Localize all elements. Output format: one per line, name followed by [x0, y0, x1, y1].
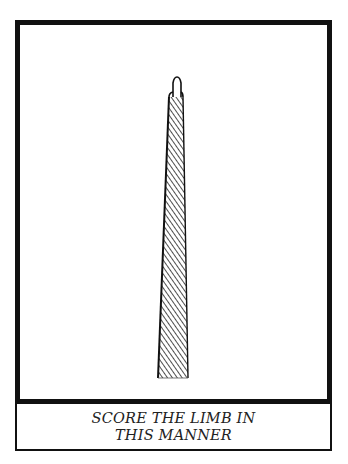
caption: SCORE THE LIMB IN THIS MANNER — [17, 404, 330, 449]
caption-line-2: THIS MANNER — [115, 427, 232, 444]
caption-line-1: SCORE THE LIMB IN — [92, 410, 256, 427]
scored-limb-illustration — [0, 0, 348, 464]
